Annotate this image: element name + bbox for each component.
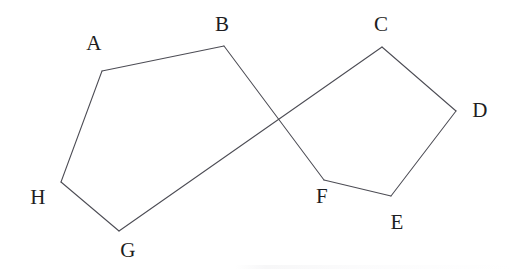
edge-d-c <box>382 47 456 111</box>
vertex-label-g: G <box>120 240 135 261</box>
edge-a-b <box>102 46 224 71</box>
edge-g-h <box>61 182 119 231</box>
vertex-label-b: B <box>215 14 229 35</box>
vertex-label-a: A <box>86 33 101 54</box>
edge-c-g <box>119 47 382 231</box>
edge-layer <box>61 46 456 231</box>
edge-b-f <box>224 46 324 180</box>
vertex-label-e: E <box>390 212 403 233</box>
edge-h-a <box>61 71 102 182</box>
vertex-label-f: F <box>316 186 328 207</box>
geometry-figure: ABCDEFGH <box>0 0 511 269</box>
vertex-label-c: C <box>374 14 388 35</box>
vertex-label-h: H <box>30 187 45 208</box>
edge-f-e <box>324 180 391 196</box>
edge-e-d <box>391 111 456 196</box>
vertex-label-d: D <box>472 100 487 121</box>
figure-canvas <box>0 0 511 269</box>
